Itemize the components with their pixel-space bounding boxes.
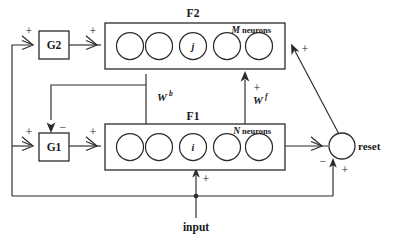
sign-g1-to-f1-plus: +: [90, 125, 97, 139]
sign-input-plus: +: [203, 172, 210, 186]
sign-reset-to-f2-plus: +: [302, 42, 309, 56]
f2-neuron-0: [117, 33, 144, 60]
diagram-canvas: j M neurons F2 i N neurons F1 G2 G1: [0, 0, 397, 239]
sign-input-to-reset-plus: +: [342, 163, 349, 177]
input-junction-dot: [194, 194, 199, 199]
art-network-diagram: j M neurons F2 i N neurons F1 G2 G1: [0, 0, 397, 239]
sign-f1-to-reset-minus: −: [320, 154, 327, 168]
f2-neuron-4: [246, 33, 273, 60]
g2-label: G2: [47, 39, 62, 51]
layer-f2: j M neurons: [105, 23, 285, 69]
left-feedback-bus: [12, 45, 30, 196]
sign-wf-plus: +: [254, 81, 261, 95]
input-label: input: [183, 221, 209, 234]
f1-count-word: neurons: [242, 126, 272, 136]
weight-label-wb: W b: [157, 89, 173, 103]
sign-g2-input-plus: +: [26, 24, 33, 38]
sign-g2-to-f2-plus: +: [90, 24, 97, 38]
node-reset: reset: [329, 133, 381, 159]
input-arrow-to-f1: [192, 168, 200, 196]
layer-f1: i N neurons: [105, 124, 285, 170]
f2-count-variable: M: [231, 25, 241, 35]
f1-count-variable: N: [232, 126, 241, 136]
gate-g1: G1: [39, 133, 69, 161]
reset-label: reset: [358, 140, 381, 152]
wb-base: W: [157, 91, 168, 103]
wf-base: W: [253, 94, 264, 106]
wb-superscript: b: [169, 89, 173, 98]
f1-neuron-1: [146, 134, 173, 161]
f2-neuron-3: [214, 33, 241, 60]
reset-circle: [329, 133, 355, 159]
f1-neuron-0: [117, 134, 144, 161]
gate-g2: G2: [39, 31, 69, 59]
sign-f2-to-g1-minus: −: [60, 120, 67, 134]
f1-index-label: i: [192, 142, 195, 153]
f1-neuron-4: [246, 134, 273, 161]
f2-title: F2: [187, 7, 200, 19]
f1-title: F1: [187, 110, 200, 122]
sign-g1-input-plus: +: [26, 125, 33, 139]
wire-reset-to-f2: [291, 44, 340, 137]
f2-neuron-1: [146, 33, 173, 60]
f2-count-word: neurons: [242, 25, 272, 35]
g1-label: G1: [47, 141, 62, 153]
wf-superscript: f: [265, 92, 269, 101]
f1-neuron-3: [214, 134, 241, 161]
wire-f1-to-reset: [285, 137, 328, 151]
